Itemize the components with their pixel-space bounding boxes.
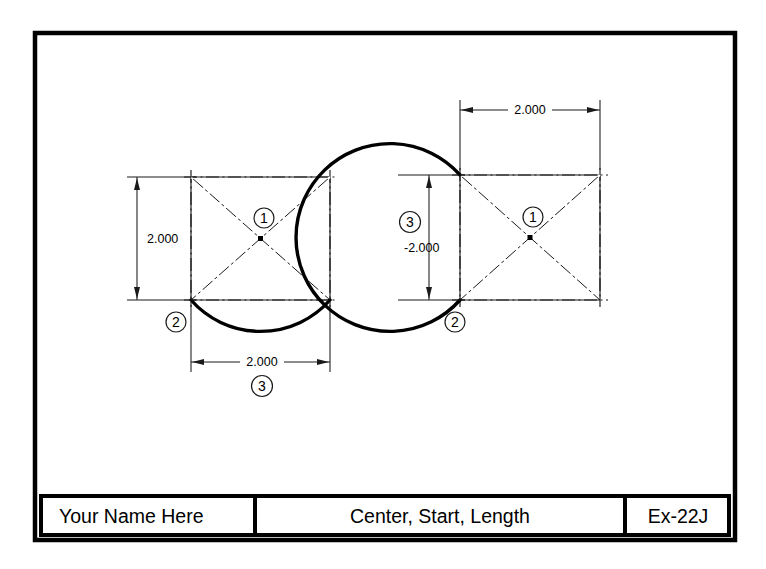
left-horizontal-dimension-text: 2.000 (246, 355, 277, 369)
sheet-border (35, 33, 735, 540)
title-block-description-text: Center, Start, Length (350, 505, 530, 527)
left-hdim-arrow-left (192, 359, 204, 365)
right-balloon-2[interactable]: 2 (445, 312, 465, 332)
right-hdim-arrow-left (461, 107, 473, 113)
left-vdim-arrow-top (134, 178, 140, 190)
right-center-point-marker (528, 235, 533, 240)
right-balloon-3-label: 3 (406, 214, 414, 230)
right-arc (296, 144, 460, 332)
drawing-sheet: Your Name Here Center, Start, Length Ex-… (0, 0, 766, 569)
left-balloon-2-label: 2 (172, 314, 180, 330)
right-figure: 2.000 -2.000 1 2 3 (296, 100, 608, 332)
left-balloon-2[interactable]: 2 (166, 312, 186, 332)
right-balloon-3[interactable]: 3 (400, 212, 421, 233)
right-vertical-dimension (398, 175, 465, 300)
right-balloon-1-label: 1 (529, 209, 537, 225)
left-center-point-marker (258, 236, 263, 241)
left-balloon-3[interactable]: 3 (252, 376, 273, 397)
left-vertical-dimension-text: 2.000 (147, 232, 178, 246)
technical-drawing-canvas: Your Name Here Center, Start, Length Ex-… (0, 0, 766, 569)
right-hdim-arrow-right (587, 107, 599, 113)
left-hdim-arrow-right (317, 359, 329, 365)
right-horizontal-dimension-text: 2.000 (514, 103, 545, 117)
right-vdim-arrow-top (426, 176, 432, 188)
left-balloon-3-label: 3 (258, 378, 266, 394)
left-balloon-1-label: 1 (260, 210, 268, 226)
right-vdim-arrow-bottom (426, 287, 432, 299)
title-block: Your Name Here Center, Start, Length Ex-… (41, 496, 729, 535)
right-balloon-2-label: 2 (451, 314, 459, 330)
right-vertical-dimension-text: -2.000 (404, 241, 439, 255)
right-balloon-1[interactable]: 1 (523, 207, 543, 227)
left-balloon-1[interactable]: 1 (254, 208, 274, 228)
title-block-name-text: Your Name Here (59, 505, 204, 527)
left-arc (191, 300, 330, 331)
title-block-exercise-text: Ex-22J (648, 505, 709, 527)
left-vdim-arrow-bottom (134, 287, 140, 299)
